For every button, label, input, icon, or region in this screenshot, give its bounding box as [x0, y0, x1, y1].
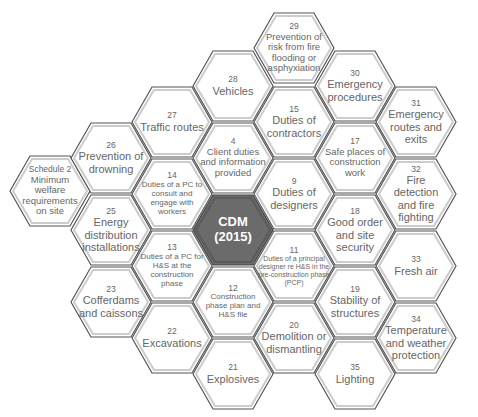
- hex-32: 32Fire detection and fire fighting: [375, 158, 457, 230]
- hex-number: 31: [411, 99, 420, 109]
- hex-number: 25: [106, 207, 115, 217]
- hex-number: 33: [411, 255, 420, 265]
- center-year: (2015): [214, 230, 252, 245]
- hex-label: Vehicles: [213, 85, 254, 97]
- hex-number: 19: [350, 285, 359, 295]
- hex-31: 31Emergency routes and exits: [375, 86, 457, 158]
- hex-number: 11: [290, 246, 299, 256]
- hex-number: 23: [106, 285, 115, 295]
- hex-33: 33Fresh air: [375, 230, 457, 302]
- hex-number: 30: [350, 69, 359, 79]
- hex-number: 9: [292, 177, 297, 187]
- hex-number: 22: [167, 327, 176, 337]
- center-title: CDM: [218, 215, 248, 230]
- hex-number: 32: [411, 165, 420, 175]
- hex-label: Temperature and weather protection: [383, 324, 449, 361]
- hex-number: 15: [289, 105, 298, 115]
- hex-label: Fresh air: [394, 265, 437, 277]
- hex-label: Fire detection and fire fighting: [383, 174, 449, 223]
- hex-label: Emergency routes and exits: [383, 108, 449, 145]
- hex-number: 27: [167, 111, 176, 121]
- hex-number: 34: [411, 315, 420, 325]
- hex-number: 18: [350, 207, 359, 217]
- hex-number: 21: [228, 363, 237, 373]
- hex-label: Lighting: [336, 373, 375, 385]
- hex-label: Explosives: [207, 373, 260, 385]
- hex-34: 34Temperature and weather protection: [375, 302, 457, 374]
- hex-number: 28: [228, 75, 237, 85]
- hex-number: 26: [106, 141, 115, 151]
- hex-number: 35: [350, 363, 359, 373]
- hex-number: 20: [289, 321, 298, 331]
